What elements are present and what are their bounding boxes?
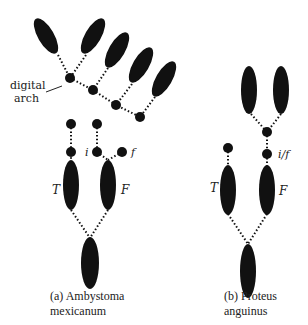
label-T: T: [210, 181, 219, 195]
digit-bone: [241, 66, 257, 114]
arch-node: [111, 100, 121, 110]
fibula-bone: [100, 160, 116, 210]
fibulare-bone: [117, 147, 127, 157]
bone-connector: [228, 214, 267, 244]
small-bone: [223, 143, 233, 153]
arch-node: [65, 73, 75, 83]
digit-bone: [147, 58, 181, 101]
digital-arch-line: [70, 78, 140, 117]
bone-connector: [71, 210, 108, 238]
femur-bone: [81, 237, 99, 289]
label-T: T: [52, 183, 61, 197]
caption-b-line2: anguinus: [224, 304, 268, 318]
digit-bone: [29, 15, 63, 58]
digit-bone: [124, 44, 158, 87]
label-if: i/f: [278, 148, 291, 161]
panel-a: digital arch i f T F (a) Ambystoma mexic…: [10, 15, 181, 318]
caption-b-line1: (b) Proteus: [224, 289, 277, 303]
label-digital: digital: [10, 79, 46, 92]
arch-node: [135, 112, 145, 122]
panel-b: i/f T F (b) Proteus anguinus: [210, 66, 291, 318]
digit-connector: [93, 68, 155, 117]
label-arch: arch: [14, 92, 39, 105]
arch-node: [88, 85, 98, 95]
label-F: F: [120, 183, 130, 197]
tibia-bone: [220, 165, 236, 215]
digit-bone: [76, 15, 110, 58]
digit-bone: [100, 29, 134, 72]
limb-diagram: digital arch i f T F (a) Ambystoma mexic…: [0, 0, 308, 325]
caption-a-line2: mexicanum: [50, 304, 107, 318]
caption-a-line1: (a) Ambystoma: [50, 289, 125, 303]
label-i: i: [85, 146, 89, 159]
label-F: F: [278, 184, 288, 198]
small-bone: [66, 147, 76, 157]
digit-bone: [273, 66, 289, 114]
intermedium-bone: [92, 147, 102, 157]
intermedium-fibulare-bone: [262, 149, 272, 159]
digital-arch-pointer: [46, 86, 62, 92]
fibula-bone: [259, 165, 275, 215]
small-bone: [92, 119, 102, 129]
label-f: f: [130, 146, 137, 159]
small-bone: [66, 119, 76, 129]
tibia-bone: [63, 160, 79, 210]
small-bone: [262, 127, 272, 137]
